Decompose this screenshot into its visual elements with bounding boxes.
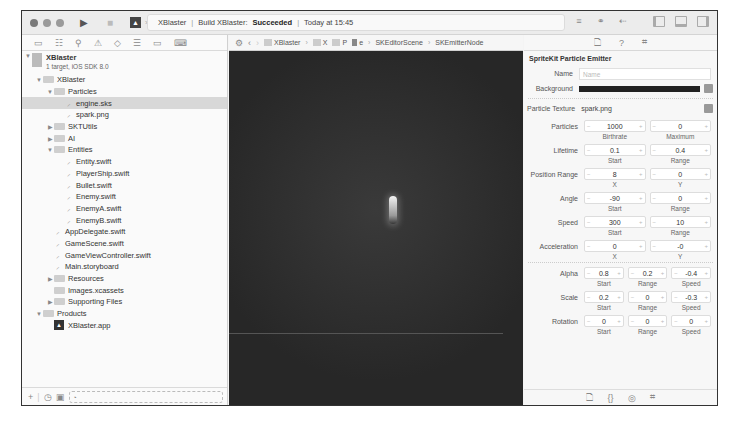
- group-row[interactable]: ▶SKTUtils: [22, 121, 227, 133]
- assistant-editor-icon[interactable]: ⚭: [595, 16, 607, 27]
- stop-button[interactable]: ■: [104, 17, 116, 28]
- texture-picker-button[interactable]: [704, 104, 713, 113]
- decrement-button[interactable]: −: [587, 243, 591, 249]
- decrement-button[interactable]: −: [631, 270, 635, 276]
- decrement-button[interactable]: −: [653, 195, 657, 201]
- code-snippet-library-icon[interactable]: {}: [607, 393, 613, 403]
- value-stepper[interactable]: −0.1+: [584, 144, 646, 156]
- breakpoint-navigator-tab-icon[interactable]: ▭: [153, 38, 162, 48]
- group-row[interactable]: ▶AI: [22, 132, 227, 144]
- disclosure-open-icon[interactable]: ▼: [35, 77, 43, 83]
- project-row[interactable]: ▼ XBlaster 1 target, iOS SDK 8.0: [22, 52, 227, 74]
- increment-button[interactable]: +: [639, 243, 643, 249]
- increment-button[interactable]: +: [704, 147, 708, 153]
- forward-button[interactable]: ›: [256, 38, 259, 48]
- quick-help-tab-icon[interactable]: ?: [619, 38, 624, 48]
- value-stepper[interactable]: −300+: [584, 216, 646, 228]
- group-row[interactable]: ▼Entities: [22, 144, 227, 156]
- file-template-library-icon[interactable]: 🗋: [586, 390, 593, 406]
- name-input[interactable]: Name: [579, 68, 711, 80]
- file-row[interactable]: ⸝EnemyA.swift: [22, 203, 227, 215]
- scm-filter-icon[interactable]: ▣: [56, 392, 65, 402]
- back-button[interactable]: ‹: [248, 38, 251, 48]
- version-editor-icon[interactable]: ⇠: [617, 16, 629, 27]
- value-stepper[interactable]: −0+: [650, 120, 712, 132]
- value-stepper[interactable]: −0.4+: [650, 144, 712, 156]
- disclosure-closed-icon[interactable]: ▶: [46, 298, 54, 305]
- disclosure-closed-icon[interactable]: ▶: [46, 123, 54, 130]
- issue-navigator-tab-icon[interactable]: ⚠: [94, 38, 102, 48]
- increment-button[interactable]: +: [661, 270, 665, 276]
- increment-button[interactable]: +: [704, 318, 708, 324]
- value-stepper[interactable]: −0+: [584, 315, 624, 327]
- zoom-button[interactable]: [56, 19, 64, 27]
- toggle-navigator-icon[interactable]: [653, 16, 665, 27]
- value-stepper[interactable]: −-0.3+: [671, 291, 711, 303]
- debug-navigator-tab-icon[interactable]: ☰: [133, 38, 141, 48]
- group-row[interactable]: ▼XBlaster: [22, 74, 227, 86]
- decrement-button[interactable]: −: [653, 219, 657, 225]
- disclosure-open-icon[interactable]: ▼: [46, 147, 54, 153]
- breadcrumb-group[interactable]: X: [313, 39, 328, 47]
- decrement-button[interactable]: −: [587, 294, 591, 300]
- value-stepper[interactable]: −0+: [650, 168, 712, 180]
- value-stepper[interactable]: −-0.4+: [671, 267, 711, 279]
- filter-input[interactable]: ◔: [69, 391, 223, 403]
- file-row[interactable]: ▲XBlaster.app: [22, 319, 227, 331]
- file-inspector-tab-icon[interactable]: 🗋: [594, 35, 601, 51]
- value-stepper[interactable]: −0.2+: [628, 267, 668, 279]
- breadcrumb-particles[interactable]: P: [332, 39, 347, 47]
- value-stepper[interactable]: −0.8+: [584, 267, 624, 279]
- value-stepper[interactable]: −0+: [584, 240, 646, 252]
- group-row[interactable]: ▼Products: [22, 308, 227, 320]
- increment-button[interactable]: +: [704, 294, 708, 300]
- recent-files-icon[interactable]: ◷: [44, 392, 52, 402]
- file-row[interactable]: ⸝GameViewController.swift: [22, 249, 227, 261]
- breadcrumb-project[interactable]: XBlaster: [264, 39, 300, 47]
- value-stepper[interactable]: −0.2+: [584, 291, 624, 303]
- increment-button[interactable]: +: [661, 294, 665, 300]
- file-row[interactable]: ⸝Enemy.swift: [22, 191, 227, 203]
- disclosure-open-icon[interactable]: ▼: [46, 89, 54, 95]
- add-icon[interactable]: +: [28, 392, 33, 402]
- decrement-button[interactable]: −: [587, 147, 591, 153]
- find-navigator-tab-icon[interactable]: ⚲: [75, 38, 82, 48]
- file-row[interactable]: ⸝AppDelegate.swift: [22, 226, 227, 238]
- minimize-button[interactable]: [43, 19, 51, 27]
- run-button[interactable]: ▶: [78, 17, 90, 28]
- toggle-utilities-icon[interactable]: [697, 16, 709, 27]
- file-row[interactable]: ⸝engine.sks: [22, 97, 227, 109]
- decrement-button[interactable]: −: [587, 195, 591, 201]
- file-row[interactable]: ⸝Main.storyboard: [22, 261, 227, 273]
- decrement-button[interactable]: −: [587, 219, 591, 225]
- disclosure-closed-icon[interactable]: ▶: [46, 135, 54, 142]
- decrement-button[interactable]: −: [587, 123, 591, 129]
- group-row[interactable]: ▶Resources: [22, 273, 227, 285]
- particle-canvas[interactable]: [229, 51, 523, 405]
- breadcrumb-scene[interactable]: SKEditorScene: [375, 39, 422, 46]
- file-row[interactable]: ⸝spark.png: [22, 109, 227, 121]
- breadcrumb-node[interactable]: SKEmitterNode: [435, 39, 483, 46]
- increment-button[interactable]: +: [639, 147, 643, 153]
- decrement-button[interactable]: −: [674, 270, 678, 276]
- toggle-debug-icon[interactable]: [675, 16, 687, 27]
- background-color-well[interactable]: [579, 86, 700, 92]
- decrement-button[interactable]: −: [653, 243, 657, 249]
- symbol-navigator-tab-icon[interactable]: ☷: [55, 38, 63, 48]
- file-row[interactable]: ⸝PlayerShip.swift: [22, 168, 227, 180]
- report-navigator-tab-icon[interactable]: ⌨: [174, 38, 187, 48]
- decrement-button[interactable]: −: [587, 318, 591, 324]
- group-row[interactable]: ▼Particles: [22, 86, 227, 98]
- increment-button[interactable]: +: [704, 219, 708, 225]
- decrement-button[interactable]: −: [587, 270, 591, 276]
- decrement-button[interactable]: −: [653, 171, 657, 177]
- increment-button[interactable]: +: [639, 195, 643, 201]
- object-library-icon[interactable]: ◎: [628, 393, 636, 403]
- related-items-icon[interactable]: ⚙: [235, 38, 243, 48]
- standard-editor-icon[interactable]: ≡: [573, 16, 585, 27]
- decrement-button[interactable]: −: [674, 318, 678, 324]
- increment-button[interactable]: +: [639, 171, 643, 177]
- value-stepper[interactable]: −0+: [628, 315, 668, 327]
- increment-button[interactable]: +: [617, 294, 621, 300]
- project-navigator-tab-icon[interactable]: ▭: [34, 38, 43, 48]
